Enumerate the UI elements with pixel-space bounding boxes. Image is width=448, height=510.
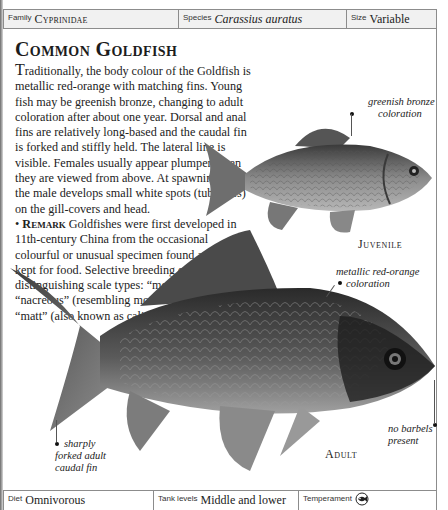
caption-line: coloration [336, 278, 419, 290]
caudal-fin-caption: sharply forked adult caudal fin [55, 438, 106, 474]
fish-profile-page: Family Cyprinidae Species Carassius aura… [0, 0, 448, 510]
callout-leader [56, 420, 57, 442]
callout-leader [434, 380, 435, 424]
page-spine-shadow [0, 0, 3, 510]
diet-cell: Diet Omnivorous [4, 491, 154, 510]
callout-dot [338, 281, 342, 285]
caption-line: metallic red-orange [336, 266, 419, 278]
family-label: Family [8, 13, 32, 22]
size-label: Size [351, 13, 367, 22]
species-label: Species [183, 13, 211, 22]
drop-cap: T [15, 61, 25, 78]
peaceful-fish-icon [355, 492, 369, 506]
juvenile-label: Juvenile [358, 237, 402, 252]
caption-line: sharply [55, 438, 106, 450]
family-cell: Family Cyprinidae [4, 10, 179, 28]
callout-dot [55, 442, 59, 446]
temperament-cell: Temperament [299, 491, 436, 510]
caption-line: greenish bronze [368, 96, 435, 108]
family-value: Cyprinidae [35, 12, 88, 27]
size-cell: Size Variable [347, 10, 436, 28]
footer-strip: Diet Omnivorous Tank levels Middle and l… [3, 490, 437, 510]
size-value: Variable [370, 12, 410, 27]
juvenile-fish-image [200, 118, 440, 238]
caption-line: caudal fin [55, 462, 106, 474]
caption-line: coloration [368, 108, 435, 120]
caption-line: no barbels [388, 423, 433, 435]
barbels-caption: no barbels present [388, 423, 433, 447]
temperament-label: Temperament [303, 494, 352, 503]
juvenile-color-caption: greenish bronze coloration [368, 96, 435, 120]
caption-line: present [388, 435, 433, 447]
adult-label: Adult [325, 447, 357, 462]
species-value: Carassius auratus [214, 12, 302, 27]
tank-levels-value: Middle and lower [201, 493, 286, 508]
caption-line: forked adult [55, 450, 106, 462]
header-strip: Family Cyprinidae Species Carassius aura… [3, 9, 437, 29]
diet-value: Omnivorous [25, 493, 85, 508]
callout-leader [351, 114, 352, 136]
page-title: Common Goldfish [15, 38, 177, 61]
adult-color-caption: metallic red-orange coloration [336, 266, 419, 290]
diet-label: Diet [8, 494, 22, 503]
tank-levels-cell: Tank levels Middle and lower [154, 491, 299, 510]
species-cell: Species Carassius auratus [179, 10, 347, 28]
tank-levels-label: Tank levels [158, 494, 198, 503]
